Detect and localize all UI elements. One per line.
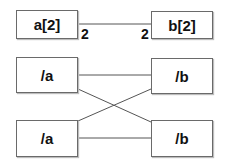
box-a-top: /a	[16, 57, 78, 93]
box-b-top: /b	[151, 58, 213, 94]
box-a-bottom-label: /a	[41, 130, 54, 147]
box-b-array-label: b[2]	[168, 17, 196, 34]
box-a-top-label: /a	[41, 67, 54, 84]
box-b-top-label: /b	[175, 68, 188, 85]
box-b-bottom: /b	[151, 120, 213, 157]
multiplicity-right: 2	[141, 27, 149, 41]
box-a-array-label: a[2]	[34, 16, 61, 33]
multiplicity-left: 2	[81, 27, 89, 41]
box-a-array: a[2]	[16, 10, 78, 39]
box-b-bottom-label: /b	[175, 130, 188, 147]
box-b-array: b[2]	[151, 11, 213, 39]
box-a-bottom: /a	[16, 120, 78, 157]
